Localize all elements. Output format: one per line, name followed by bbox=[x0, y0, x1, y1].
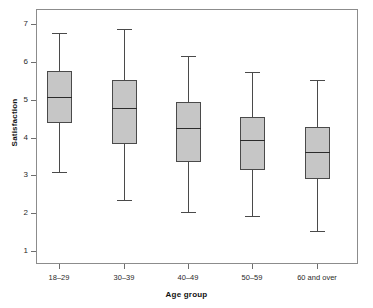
whisker-upper bbox=[188, 56, 189, 102]
whisker-cap-upper bbox=[52, 33, 67, 34]
median-line bbox=[240, 140, 265, 141]
y-axis-tick-label: 6 bbox=[8, 58, 28, 66]
whisker-lower bbox=[59, 123, 60, 172]
y-axis-tick bbox=[31, 24, 36, 25]
whisker-cap-upper bbox=[117, 29, 132, 30]
whisker-cap-upper bbox=[310, 80, 325, 81]
y-axis-title: Satisfaction bbox=[10, 73, 19, 173]
median-line bbox=[305, 152, 330, 153]
box-iqr bbox=[240, 117, 265, 170]
x-axis-tick bbox=[188, 264, 189, 269]
box-iqr bbox=[112, 80, 137, 144]
whisker-upper bbox=[252, 72, 253, 117]
x-axis-tick bbox=[59, 264, 60, 269]
whisker-cap-upper bbox=[181, 56, 196, 57]
whisker-upper bbox=[124, 29, 125, 80]
y-axis-tick-label: 2 bbox=[8, 209, 28, 217]
x-axis-title: Age group bbox=[0, 290, 373, 299]
y-axis-tick bbox=[31, 62, 36, 63]
whisker-lower bbox=[124, 144, 125, 200]
y-axis-tick bbox=[31, 138, 36, 139]
whisker-lower bbox=[252, 170, 253, 216]
box-plot-chart: 1234567 18–2930–3940–4950–5960 and over … bbox=[0, 0, 373, 308]
whisker-lower bbox=[188, 162, 189, 211]
whisker-cap-lower bbox=[245, 216, 260, 217]
y-axis-tick bbox=[31, 175, 36, 176]
x-axis-tick bbox=[124, 264, 125, 269]
median-line bbox=[176, 128, 201, 129]
x-axis-tick-label: 60 and over bbox=[277, 273, 357, 282]
median-line bbox=[112, 108, 137, 109]
whisker-cap-lower bbox=[52, 172, 67, 173]
y-axis-tick bbox=[31, 251, 36, 252]
whisker-lower bbox=[317, 179, 318, 231]
whisker-upper bbox=[59, 33, 60, 71]
median-line bbox=[47, 97, 72, 98]
x-axis-tick bbox=[252, 264, 253, 269]
y-axis-tick bbox=[31, 213, 36, 214]
box-iqr bbox=[176, 102, 201, 163]
whisker-upper bbox=[317, 80, 318, 127]
whisker-cap-lower bbox=[117, 200, 132, 201]
y-axis-tick-label: 1 bbox=[8, 247, 28, 255]
whisker-cap-lower bbox=[310, 231, 325, 232]
y-axis-tick-label: 7 bbox=[8, 20, 28, 28]
whisker-cap-lower bbox=[181, 212, 196, 213]
y-axis-tick bbox=[31, 100, 36, 101]
x-axis-tick bbox=[317, 264, 318, 269]
whisker-cap-upper bbox=[245, 72, 260, 73]
